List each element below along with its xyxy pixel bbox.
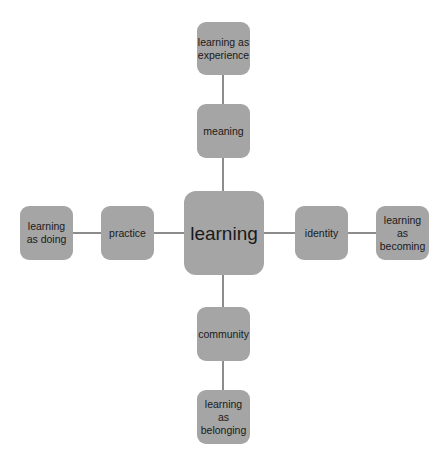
node-label: meaning: [203, 125, 243, 138]
node-meaning: meaning: [197, 104, 250, 158]
connector-community-belonging: [222, 361, 224, 390]
connector-experience-meaning: [222, 75, 224, 104]
node-label: learning: [190, 227, 258, 240]
node-label: community: [198, 328, 249, 341]
connector-meaning-learning: [222, 158, 224, 191]
connector-learning-community: [222, 275, 224, 307]
node-label: learning as belonging: [199, 398, 248, 437]
node-learning-as-experience: learning as experience: [197, 22, 250, 75]
connector-identity-becoming: [348, 232, 376, 234]
connector-learning-identity: [264, 232, 295, 234]
node-learning: learning: [184, 191, 264, 275]
node-practice: practice: [101, 206, 154, 260]
node-community: community: [197, 307, 250, 361]
node-label: learning as becoming: [378, 214, 427, 253]
node-label: identity: [305, 227, 338, 240]
node-label: learning as doing: [22, 220, 71, 246]
node-learning-as-becoming: learning as becoming: [376, 206, 429, 260]
node-identity: identity: [295, 206, 348, 260]
connector-doing-practice: [73, 232, 101, 234]
node-learning-as-doing: learning as doing: [20, 206, 73, 260]
node-learning-as-belonging: learning as belonging: [197, 390, 250, 444]
node-label: practice: [109, 227, 146, 240]
connector-practice-learning: [154, 232, 184, 234]
node-label: learning as experience: [198, 36, 249, 62]
